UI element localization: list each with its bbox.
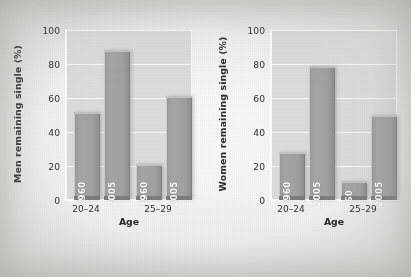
y-axis-title-women: Women remaining single (%)	[216, 28, 230, 200]
x-axis-title-women: Age	[271, 216, 397, 227]
y-axis-line	[270, 29, 271, 201]
bar-men-2024-2005: 2005	[104, 50, 130, 200]
y-tick-label-60: 60	[34, 94, 60, 103]
y-tick-label-40: 40	[34, 128, 60, 137]
bar-men-2024-1960: 1960	[74, 112, 100, 200]
bar-top-edge	[104, 50, 130, 52]
y-tick-label-20: 20	[34, 162, 60, 171]
bar-label: 1960	[282, 181, 292, 207]
bar-top-edge	[279, 152, 305, 154]
y-tick-label-80: 80	[239, 60, 265, 69]
gridline-100	[66, 30, 192, 31]
bar-top-edge	[136, 164, 162, 166]
bar-label: 2005	[169, 181, 179, 207]
plot-area-women: 1960 2005 60 2005	[271, 30, 397, 200]
x-tick-label-2529: 25–29	[128, 204, 188, 214]
bar-women-2529-2005: 2005	[371, 115, 397, 200]
bar-women-2024-1960: 1960	[279, 152, 305, 200]
y-tick-label-60: 60	[239, 94, 265, 103]
bar-men-2529-2005: 2005	[166, 96, 192, 200]
y-tick-label-80: 80	[34, 60, 60, 69]
figure-page: Men remaining single (%) 100 80 60 40 20…	[0, 0, 411, 277]
plot-area-men: 1960 2005 1960 2005	[66, 30, 192, 200]
y-tick-label-20: 20	[239, 162, 265, 171]
bar-top-edge	[341, 181, 367, 183]
x-tick-label-2024: 20–24	[56, 204, 116, 214]
bar-label: 1960	[77, 181, 87, 207]
chart-panel-women: Women remaining single (%) 100 80 60 40 …	[205, 0, 410, 277]
y-tick-label-100: 100	[34, 26, 60, 35]
bar-top-edge	[371, 115, 397, 117]
x-axis-title-men: Age	[66, 216, 192, 227]
bar-top-edge	[309, 66, 335, 68]
bar-women-2024-2005: 2005	[309, 66, 335, 200]
bar-men-2529-1960: 1960	[136, 164, 162, 200]
gridline-100	[271, 30, 397, 31]
bar-label: 2005	[374, 181, 384, 207]
y-axis-line	[65, 29, 66, 201]
y-tick-label-40: 40	[239, 128, 265, 137]
bar-label: 2005	[107, 181, 117, 207]
y-axis-title-men: Men remaining single (%)	[11, 28, 25, 200]
y-tick-label-100: 100	[239, 26, 265, 35]
bar-top-edge	[166, 96, 192, 98]
x-tick-label-2024: 20–24	[261, 204, 321, 214]
bar-top-edge	[74, 112, 100, 114]
bar-label: 1960	[139, 181, 149, 207]
chart-panel-men: Men remaining single (%) 100 80 60 40 20…	[0, 0, 205, 277]
bar-label: 60	[345, 190, 354, 202]
bar-women-2529-1960: 60	[341, 181, 367, 200]
x-tick-label-2529: 25–29	[333, 204, 393, 214]
bar-label: 2005	[312, 181, 322, 207]
